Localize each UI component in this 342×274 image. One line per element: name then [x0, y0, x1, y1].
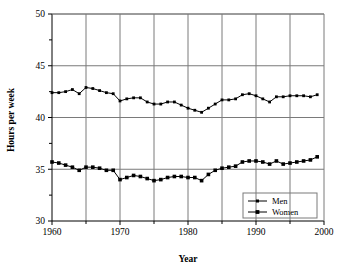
line-chart: 3035404550 19601970198019902000 MenWomen… — [0, 0, 342, 274]
legend-marker — [256, 210, 260, 214]
legend-label-men: Men — [272, 196, 288, 206]
data-point — [220, 166, 224, 170]
series-men — [51, 86, 319, 114]
data-point — [119, 100, 122, 103]
data-point — [64, 163, 68, 167]
data-point — [254, 159, 258, 163]
data-point — [261, 97, 264, 100]
data-point — [261, 160, 265, 164]
data-point — [282, 95, 285, 98]
y-tick-label: 45 — [36, 61, 46, 71]
data-point — [98, 89, 101, 92]
x-axis-title: Year — [179, 254, 199, 264]
data-point — [275, 159, 279, 163]
data-point — [77, 168, 81, 172]
data-point — [316, 93, 319, 96]
data-point — [78, 92, 81, 95]
data-point — [166, 176, 170, 180]
data-point — [221, 99, 224, 102]
data-point — [248, 92, 251, 95]
data-point — [179, 175, 183, 179]
data-point — [91, 87, 94, 90]
data-point — [214, 103, 217, 106]
chart-legend: MenWomen — [243, 193, 317, 218]
data-point — [234, 164, 238, 168]
data-point — [193, 176, 197, 180]
chart-figure: 3035404550 19601970198019902000 MenWomen… — [0, 0, 342, 274]
data-point — [51, 91, 54, 94]
data-point — [186, 176, 190, 180]
data-point — [207, 107, 210, 110]
data-point — [302, 159, 306, 163]
data-point — [85, 86, 88, 89]
data-point — [91, 165, 95, 169]
data-point — [193, 109, 196, 112]
data-point — [275, 95, 278, 98]
x-tick-label: 1970 — [111, 227, 130, 237]
data-point — [64, 90, 67, 93]
data-point — [57, 91, 60, 94]
y-tick-label: 30 — [36, 216, 46, 226]
data-point — [187, 107, 190, 110]
data-point — [247, 159, 251, 163]
grid-lines — [52, 14, 324, 221]
data-point — [268, 101, 271, 104]
x-tick-labels: 19601970198019902000 — [43, 227, 334, 237]
data-point — [145, 177, 149, 181]
y-axis-title: Hours per week — [6, 87, 16, 152]
x-tick-label: 1980 — [179, 227, 198, 237]
data-point — [159, 103, 162, 106]
data-point — [139, 175, 143, 179]
x-tick-label: 1960 — [43, 227, 62, 237]
data-point — [105, 168, 109, 172]
data-point — [118, 178, 122, 182]
data-point — [302, 94, 305, 97]
data-point — [295, 160, 299, 164]
data-series — [50, 86, 319, 182]
data-point — [111, 168, 115, 172]
data-point — [98, 166, 102, 170]
data-point — [139, 96, 142, 99]
y-tick-label: 50 — [36, 9, 46, 19]
data-point — [105, 91, 108, 94]
data-point — [281, 162, 285, 166]
data-point — [71, 165, 75, 169]
data-point — [125, 176, 129, 180]
data-point — [159, 178, 163, 182]
data-point — [288, 161, 292, 165]
data-point — [241, 93, 244, 96]
data-point — [234, 97, 237, 100]
data-point — [289, 94, 292, 97]
data-point — [132, 174, 136, 178]
data-point — [132, 96, 135, 99]
data-point — [268, 162, 272, 166]
y-tick-label: 35 — [36, 165, 46, 175]
data-point — [200, 111, 203, 114]
data-point — [200, 179, 204, 183]
series-line-men — [52, 87, 317, 112]
data-point — [227, 99, 230, 102]
legend-marker — [256, 200, 259, 203]
data-point — [213, 168, 217, 172]
data-point — [241, 160, 245, 164]
data-point — [295, 94, 298, 97]
data-point — [173, 101, 176, 104]
data-point — [152, 179, 156, 183]
data-point — [309, 158, 313, 162]
data-point — [255, 94, 258, 97]
data-point — [112, 92, 115, 95]
data-point — [71, 88, 74, 91]
data-point — [180, 104, 183, 107]
data-point — [57, 161, 61, 165]
x-tick-label: 1990 — [247, 227, 266, 237]
data-point — [50, 160, 54, 164]
data-point — [227, 165, 231, 169]
data-point — [166, 101, 169, 104]
data-point — [125, 97, 128, 100]
x-tick-label: 2000 — [315, 227, 334, 237]
data-point — [84, 165, 88, 169]
data-point — [315, 155, 319, 159]
y-tick-labels: 3035404550 — [36, 9, 46, 226]
y-tick-label: 40 — [36, 113, 46, 123]
data-point — [153, 103, 156, 106]
